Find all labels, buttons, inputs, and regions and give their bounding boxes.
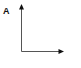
y-axis-arrowhead-icon — [19, 4, 24, 10]
x-axis — [22, 49, 65, 54]
y-axis — [19, 4, 24, 52]
axes-diagram — [0, 0, 81, 68]
x-axis-arrowhead-icon — [59, 49, 65, 54]
